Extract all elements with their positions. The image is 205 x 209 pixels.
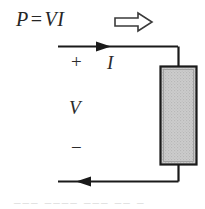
clipped-caption-fragment: ___ ____ ___ __ _ xyxy=(0,201,205,209)
power-flow-block-arrow-icon xyxy=(115,13,152,31)
equation-symbol-p: P xyxy=(16,8,29,30)
circuit-element-box xyxy=(161,67,197,165)
top-wire xyxy=(58,42,178,52)
bottom-current-arrowhead-icon xyxy=(76,177,91,187)
circuit-power-figure: P=VI + I V − ___ ____ ___ __ _ xyxy=(0,0,205,209)
bottom-wire xyxy=(58,177,179,187)
equation-equals-sign: = xyxy=(29,8,45,30)
equation-symbol-vi: VI xyxy=(45,8,65,30)
voltage-label: V xyxy=(69,98,81,117)
caption-fragment-text: ___ ____ ___ __ _ xyxy=(14,201,146,206)
terminal-label-negative: − xyxy=(71,138,82,157)
circuit-diagram-canvas xyxy=(0,0,205,209)
top-current-arrowhead-icon xyxy=(96,42,111,52)
current-label: I xyxy=(107,53,113,72)
terminal-label-positive: + xyxy=(71,52,82,71)
power-equation: P=VI xyxy=(16,9,64,29)
